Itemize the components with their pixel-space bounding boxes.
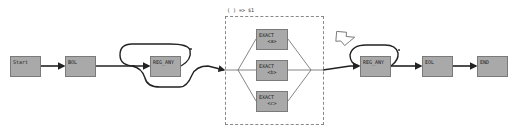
hollow-arrow-icon <box>331 25 354 48</box>
node-start[interactable]: Start <box>10 56 41 77</box>
node-exact-a[interactable]: EXACT <a> <box>256 29 288 50</box>
node-exact-b[interactable]: EXACT <b> <box>256 60 288 81</box>
node-label: BOL <box>68 59 77 65</box>
quantifier-star-1 <box>190 48 192 50</box>
node-bol[interactable]: BOL <box>65 56 96 77</box>
node-end[interactable]: END <box>477 56 508 77</box>
node-label: Start <box>13 59 28 65</box>
node-value: <a> <box>259 38 285 44</box>
node-reg-any-1[interactable]: REG_ANY <box>150 56 181 77</box>
node-value: <b> <box>259 69 285 75</box>
node-label: REG_ANY <box>363 59 384 65</box>
regex-diagram: ( ) => $1 Start BOL REG_ANY EXACT <a> EX… <box>0 0 515 131</box>
node-label: REG_ANY <box>153 59 174 65</box>
node-label: END <box>480 59 489 65</box>
node-value: <c> <box>259 100 285 106</box>
capture-group-label: ( ) => $1 <box>227 7 254 13</box>
node-label: EOL <box>425 59 434 65</box>
node-eol[interactable]: EOL <box>422 56 453 77</box>
node-exact-c[interactable]: EXACT <c> <box>256 91 288 112</box>
quantifier-star-2 <box>398 49 400 51</box>
node-reg-any-2[interactable]: REG_ANY <box>360 56 391 77</box>
